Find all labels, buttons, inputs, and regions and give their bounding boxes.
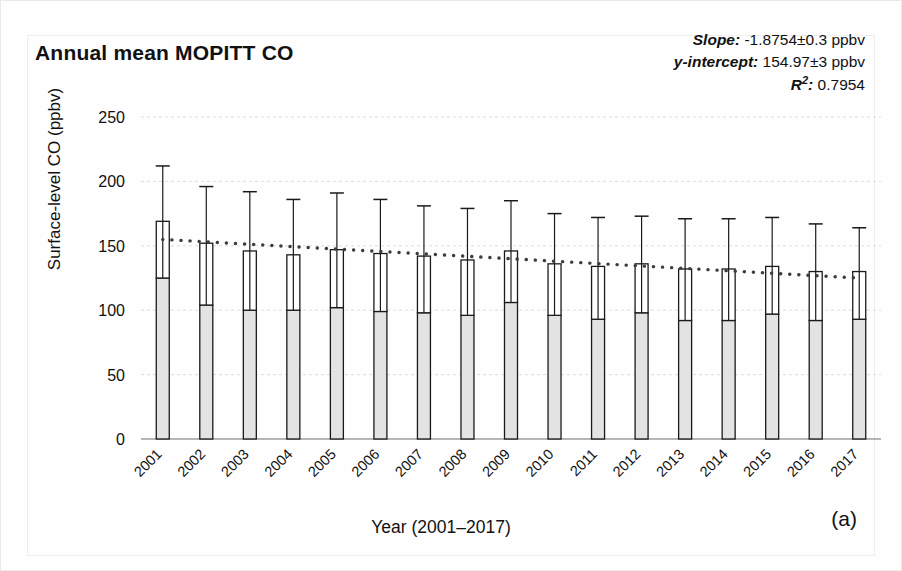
- bar-lower-segment: [374, 311, 387, 439]
- bar-lower-segment: [853, 319, 866, 439]
- x-axis-tick-label: 2012: [610, 446, 644, 480]
- bar-lower-segment: [417, 313, 430, 439]
- bar-lower-segment: [548, 315, 561, 439]
- bar-lower-segment: [243, 310, 256, 439]
- bar-lower-segment: [766, 314, 779, 439]
- x-axis-tick-label: 2002: [174, 446, 208, 480]
- x-axis-tick-label: 2010: [523, 446, 557, 480]
- y-axis-tick-label: 100: [98, 302, 125, 319]
- x-axis-tick-label: 2013: [653, 446, 687, 480]
- bar-lower-segment: [809, 321, 822, 439]
- bar-lower-segment: [679, 321, 692, 439]
- bar-lower-segment: [592, 319, 605, 439]
- y-axis-tick-label: 250: [98, 109, 125, 126]
- bar-lower-segment: [722, 321, 735, 439]
- x-axis-tick-label: 2003: [218, 446, 252, 480]
- figure-panel: Annual mean MOPITT CO Slope: -1.8754±0.3…: [0, 0, 902, 571]
- bar-lower-segment: [200, 305, 213, 439]
- x-axis-tick-label: 2014: [697, 446, 731, 480]
- x-axis-label: Year (2001–2017): [231, 517, 651, 538]
- bar-lower-segment: [635, 313, 648, 439]
- x-axis-tick-label: 2009: [479, 446, 513, 480]
- plot-area: 0501001502002502001200220032004200520062…: [1, 1, 902, 571]
- x-axis-tick-label: 2011: [567, 446, 600, 479]
- y-axis-tick-label: 50: [107, 367, 125, 384]
- x-axis-tick-label: 2001: [131, 446, 165, 480]
- x-axis-tick-label: 2017: [827, 446, 861, 480]
- y-axis-tick-label: 150: [98, 238, 125, 255]
- bar-lower-segment: [330, 308, 343, 439]
- y-axis-label: Surface-level CO (ppbv): [45, 29, 65, 329]
- x-axis-tick-label: 2004: [261, 446, 295, 480]
- x-axis-tick-label: 2006: [348, 446, 382, 480]
- chart-svg: 0501001502002502001200220032004200520062…: [1, 1, 902, 571]
- x-axis-tick-label: 2007: [392, 446, 426, 480]
- x-axis-tick-label: 2016: [784, 446, 818, 480]
- x-axis-tick-label: 2008: [435, 446, 469, 480]
- x-axis-tick-label: 2015: [740, 446, 774, 480]
- panel-label: (a): [831, 507, 857, 531]
- bar-lower-segment: [461, 315, 474, 439]
- y-axis-tick-label: 0: [116, 431, 125, 448]
- bar-lower-segment: [156, 278, 169, 439]
- bar-lower-segment: [287, 310, 300, 439]
- y-axis-tick-label: 200: [98, 173, 125, 190]
- bar-lower-segment: [505, 302, 518, 439]
- x-axis-tick-label: 2005: [305, 446, 339, 480]
